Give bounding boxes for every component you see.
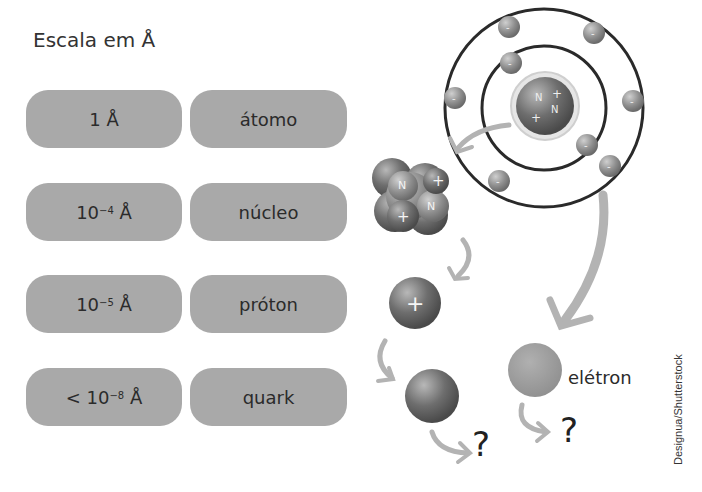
atom-structure-diagram: N + N + - - - - - - - - <box>0 0 702 492</box>
svg-text:-: - <box>506 22 510 33</box>
svg-text:-: - <box>591 28 595 39</box>
svg-text:-: - <box>630 96 634 107</box>
svg-text:+: + <box>406 291 424 316</box>
svg-text:N: N <box>398 179 406 192</box>
svg-text:-: - <box>584 140 588 151</box>
svg-text:+: + <box>531 111 541 125</box>
svg-text:-: - <box>452 93 456 104</box>
quark-unknown-mark: ? <box>472 424 490 464</box>
svg-text:-: - <box>607 161 611 172</box>
atom-icon: N + N + - - - - - - - - <box>444 9 644 207</box>
svg-text:+: + <box>397 208 410 226</box>
svg-text:N: N <box>427 200 435 213</box>
svg-text:-: - <box>508 58 512 69</box>
svg-text:+: + <box>552 87 562 101</box>
quark-icon <box>405 369 459 423</box>
electron-icon <box>508 343 562 397</box>
proton-icon: + <box>389 277 441 329</box>
electron-label: elétron <box>568 367 632 388</box>
electron-unknown-mark: ? <box>560 410 578 450</box>
nucleus-icon: N + N + <box>372 158 449 235</box>
svg-text:N: N <box>535 92 542 103</box>
svg-text:+: + <box>432 172 445 190</box>
image-credit: Designua/Shutterstock <box>672 354 684 465</box>
svg-text:-: - <box>496 176 500 187</box>
svg-text:N: N <box>551 104 558 115</box>
